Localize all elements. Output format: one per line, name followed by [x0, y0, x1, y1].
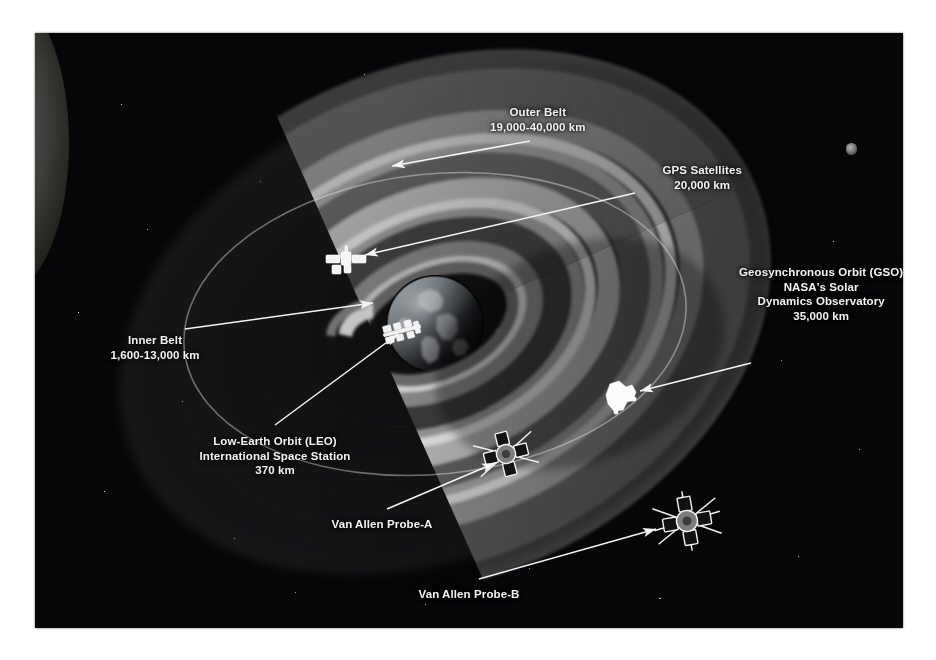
figure-root: Outer Belt19,000-40,000 kmGPS Satellites… [0, 0, 936, 660]
diagram-panel: Outer Belt19,000-40,000 kmGPS Satellites… [35, 33, 903, 628]
film-grain [35, 33, 903, 628]
